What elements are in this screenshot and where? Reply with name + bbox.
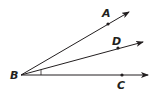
angle-diagram: A D C B [0, 0, 155, 91]
label-c: C [117, 79, 125, 91]
ray-bd [21, 42, 143, 75]
point-a [106, 22, 109, 25]
point-c [120, 73, 123, 76]
label-a: A [101, 7, 111, 20]
label-b: B [10, 69, 18, 82]
label-d: D [112, 35, 121, 48]
